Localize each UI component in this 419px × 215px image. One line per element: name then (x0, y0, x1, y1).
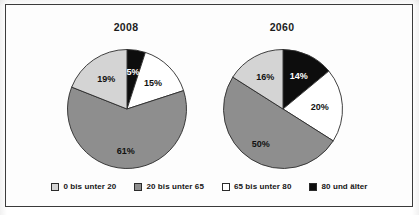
pie-chart-2060: 2060 14%20%50%16% (222, 0, 342, 182)
legend-label: 20 bis unter 65 (146, 182, 204, 191)
pie-slice-label: 16% (256, 72, 274, 82)
chart-title-2060: 2060 (222, 21, 342, 33)
pie-slice-label: 14% (290, 71, 308, 81)
pie-slice-label: 50% (252, 139, 270, 149)
pie-svg-2008: 5%15%61%19% (66, 48, 188, 170)
legend-swatch-20-bis-unter-65 (134, 183, 142, 191)
legend-item: 20 bis unter 65 (134, 182, 204, 191)
pie-svg-2060: 14%20%50%16% (222, 48, 344, 170)
pie-slice-label: 20% (311, 102, 329, 112)
legend-item: 65 bis unter 80 (222, 182, 292, 191)
legend-label: 0 bis unter 20 (63, 182, 116, 191)
pie-canvas-2060: 14%20%50%16% (222, 48, 344, 170)
pie-slice-label: 61% (117, 146, 135, 156)
legend-swatch-0-bis-unter-20 (51, 183, 59, 191)
pie-canvas-2008: 5%15%61%19% (66, 48, 188, 170)
pie-chart-2008: 2008 5%15%61%19% (66, 0, 186, 182)
chart-title-2008: 2008 (66, 21, 186, 33)
legend-label: 80 und älter (321, 182, 367, 191)
legend-label: 65 bis unter 80 (234, 182, 292, 191)
pie-slice-label: 15% (144, 78, 162, 88)
legend-item: 0 bis unter 20 (51, 182, 116, 191)
legend-swatch-80-und-aelter (309, 183, 317, 191)
figure-root: 2008 5%15%61%19% 2060 14%20%50%16% 0 bis… (0, 0, 419, 215)
legend-item: 80 und älter (309, 182, 367, 191)
legend-swatch-65-bis-unter-80 (222, 183, 230, 191)
chart-legend: 0 bis unter 20 20 bis unter 65 65 bis un… (0, 182, 419, 191)
pie-slice-label: 5% (126, 67, 139, 77)
pie-slice-label: 19% (97, 74, 115, 84)
